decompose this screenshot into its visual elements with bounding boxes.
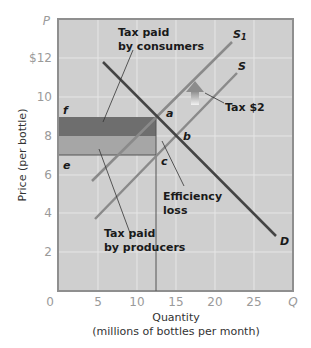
tax-producers-region <box>59 136 156 155</box>
chart: Tax paid by consumers Tax paid by produc… <box>0 0 311 348</box>
x-tick-25: 25 <box>246 295 261 309</box>
x-axis-symbol: Q <box>288 295 297 309</box>
point-c: c <box>161 155 168 168</box>
consumers-label-2: by consumers <box>118 40 205 53</box>
x-tick-20: 20 <box>207 295 222 309</box>
producers-label-1: Tax paid <box>104 227 155 240</box>
x-axis-sublabel: (millions of bottles per month) <box>92 325 259 338</box>
x-tick-10: 10 <box>129 295 144 309</box>
y-tick-12: $12 <box>29 51 52 65</box>
tax-label: Tax $2 <box>225 101 265 114</box>
curve-label-d: D <box>280 235 289 248</box>
y-tick-10: 10 <box>37 90 52 104</box>
efficiency-label-1: Efficiency <box>163 190 222 203</box>
y-axis-symbol: P <box>43 14 51 28</box>
x-tick-15: 15 <box>168 295 183 309</box>
y-axis-label: Price (per bottle) <box>16 109 29 202</box>
x-tick-0: 0 <box>46 295 54 309</box>
point-a: a <box>166 107 173 120</box>
curve-label-s: S <box>238 60 246 73</box>
y-tick-4: 4 <box>44 206 52 220</box>
point-b: b <box>183 130 191 143</box>
x-tick-5: 5 <box>94 295 102 309</box>
consumers-label-1: Tax paid <box>118 26 169 39</box>
efficiency-label-2: loss <box>163 204 188 217</box>
point-e: e <box>63 159 71 172</box>
y-tick-8: 8 <box>44 129 52 143</box>
producers-label-2: by producers <box>104 241 186 254</box>
x-axis-label: Quantity <box>152 311 200 324</box>
y-tick-2: 2 <box>44 245 52 259</box>
y-tick-6: 6 <box>44 168 52 182</box>
